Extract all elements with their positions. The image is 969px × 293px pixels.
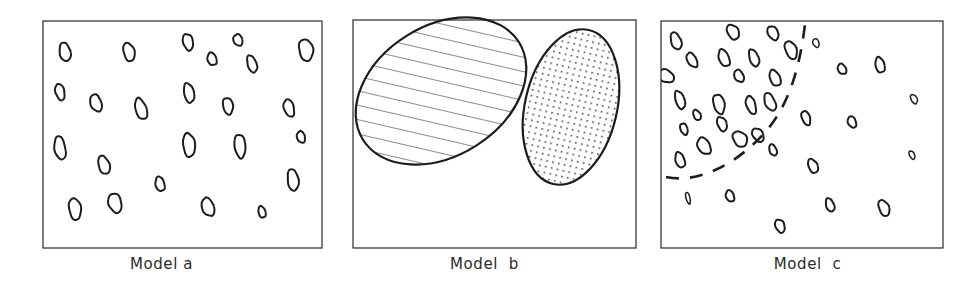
ellipse-marker <box>233 134 246 159</box>
ellipse-marker <box>747 48 762 68</box>
ellipse-marker <box>222 97 235 115</box>
ellipse-marker <box>286 168 300 191</box>
panel-a-drawing <box>0 0 323 293</box>
panel-c-caption: Model c <box>646 255 969 273</box>
ellipse-marker <box>282 98 297 118</box>
ellipse-marker <box>824 197 836 213</box>
hatched-region <box>329 0 554 195</box>
stippled-region <box>508 20 633 195</box>
ellipse-marker <box>684 51 700 70</box>
panel-b-caption: Model b <box>323 255 646 273</box>
ellipse-marker <box>712 94 727 116</box>
panel-c-drawing <box>646 0 969 293</box>
ellipse-marker <box>53 83 66 102</box>
ellipse-marker <box>656 67 677 86</box>
panel-b-drawing <box>323 0 646 293</box>
figure-three-models: Model a Model b <box>0 0 969 293</box>
ellipse-marker <box>908 150 916 160</box>
ellipse-marker <box>876 198 892 217</box>
ellipse-marker <box>767 68 783 88</box>
ellipse-marker <box>232 33 245 48</box>
panel-a-frame <box>43 21 322 248</box>
ellipse-marker <box>88 93 104 114</box>
ellipse-marker <box>846 115 858 129</box>
ellipse-marker <box>52 135 67 160</box>
ellipse-marker <box>874 56 887 74</box>
ellipse-marker <box>761 91 778 112</box>
ellipse-marker <box>765 24 781 42</box>
panel-b-region-group <box>329 0 634 195</box>
panel-model-a: Model a <box>0 0 323 293</box>
ellipse-marker <box>257 205 267 218</box>
ellipse-marker <box>724 189 736 203</box>
ellipse-marker <box>725 22 742 41</box>
ellipse-marker <box>773 218 787 234</box>
ellipse-marker <box>245 54 259 74</box>
panel-model-b: Model b <box>323 0 646 293</box>
panel-a-caption: Model a <box>0 255 323 273</box>
ellipse-marker <box>199 196 217 218</box>
ellipse-marker <box>182 132 196 157</box>
ellipse-marker <box>800 110 813 127</box>
ellipse-marker <box>715 115 729 132</box>
panel-c-ellipse-group <box>656 22 919 234</box>
ellipse-marker <box>806 157 820 174</box>
ellipse-marker <box>909 93 919 105</box>
panel-a-ellipse-group <box>52 33 315 221</box>
ellipse-marker <box>730 128 751 149</box>
ellipse-marker <box>767 143 778 157</box>
ellipse-marker <box>122 41 138 62</box>
ellipse-marker <box>691 108 702 121</box>
ellipse-marker <box>685 192 692 205</box>
ellipse-marker <box>836 62 849 76</box>
ellipse-marker <box>812 38 821 48</box>
ellipse-marker <box>206 51 219 66</box>
ellipse-marker <box>679 123 690 137</box>
ellipse-marker <box>68 197 83 220</box>
panel-c-clip-group <box>656 2 919 234</box>
ellipse-marker <box>181 33 195 52</box>
ellipse-marker <box>106 192 124 215</box>
panel-model-c: Model c <box>646 0 969 293</box>
ellipse-marker <box>298 38 316 62</box>
ellipse-marker <box>96 154 113 175</box>
ellipse-marker <box>295 130 306 144</box>
ellipse-marker <box>673 151 686 169</box>
ellipse-marker <box>57 41 72 62</box>
ellipse-marker <box>668 31 684 51</box>
ellipse-marker <box>673 89 688 110</box>
ellipse-marker <box>132 96 149 120</box>
ellipse-marker <box>694 135 714 157</box>
ellipse-marker <box>732 68 746 84</box>
ellipse-marker <box>182 82 196 104</box>
ellipse-marker <box>716 47 732 67</box>
ellipse-marker <box>744 95 759 116</box>
panel-c-frame <box>661 21 943 248</box>
ellipse-marker <box>783 39 800 61</box>
ellipse-marker <box>154 175 166 192</box>
